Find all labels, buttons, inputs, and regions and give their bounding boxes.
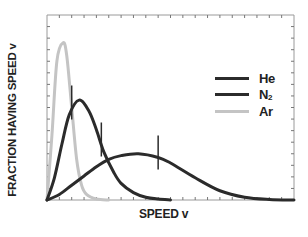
curve-n2 [47, 100, 171, 200]
y-axis-label-text: FRACTION HAVING SPEED v [6, 43, 18, 197]
legend-swatch-n2 [215, 93, 249, 96]
legend: He N2 Ar [215, 70, 275, 120]
legend-item-ar: Ar [215, 103, 275, 120]
legend-swatch-ar [215, 110, 249, 113]
x-axis-label: SPEED v [139, 207, 188, 221]
legend-item-n2: N2 [215, 87, 275, 104]
legend-label-ar: Ar [259, 104, 273, 119]
y-axis-label: FRACTION HAVING SPEED v [2, 20, 22, 220]
curves [47, 43, 294, 200]
legend-label-n2: N2 [259, 87, 272, 102]
legend-swatch-he [215, 77, 249, 80]
legend-label-he: He [259, 71, 275, 86]
legend-item-he: He [215, 70, 275, 87]
